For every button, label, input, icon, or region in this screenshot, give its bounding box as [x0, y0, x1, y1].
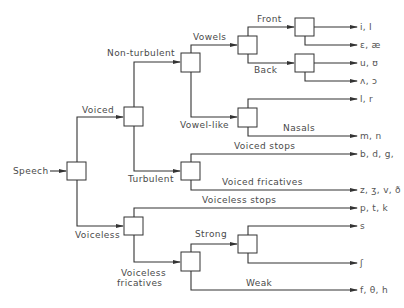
- label-voiceless-stops: Voiceless stops: [202, 195, 276, 205]
- node-non-turbulent: [181, 53, 200, 72]
- label-voiced-fricatives: Voiced fricatives: [222, 177, 303, 187]
- output-voiced-stops: b, d, g,: [360, 149, 394, 159]
- edge-back: [248, 54, 294, 63]
- output-front-2: ɛ, æ: [360, 40, 381, 50]
- node-speech: [67, 162, 86, 180]
- label-voiced: Voiced: [82, 105, 114, 115]
- label-turbulent: Turbulent: [127, 174, 174, 184]
- edge-voiceless-stops: [134, 208, 357, 217]
- node-front: [295, 18, 314, 36]
- label-non-turbulent: Non-turbulent: [107, 48, 175, 58]
- node-turbulent: [181, 162, 200, 180]
- edge-non-turbulent: [134, 62, 180, 107]
- edge-strong-out-1: [248, 226, 357, 235]
- edge-vowel-like: [191, 72, 237, 117]
- edge-weak: [191, 271, 357, 290]
- edge-vowels: [191, 45, 237, 53]
- node-back: [295, 54, 314, 72]
- edge-voiced-stops: [191, 154, 357, 162]
- label-weak: Weak: [246, 278, 273, 288]
- label-voiceless: Voiceless: [75, 230, 120, 240]
- output-voiceless-stops: p, t, k: [360, 203, 388, 213]
- node-voiceless-fricatives: [181, 252, 200, 271]
- speech-classification-tree: Speech Voiced Voiceless Non-turbulent Tu…: [0, 0, 404, 308]
- label-voiceless-fricatives-line1: Voiceless: [121, 268, 166, 278]
- label-nasals: Nasals: [283, 123, 315, 133]
- label-voiced-stops: Voiced stops: [234, 141, 295, 151]
- node-voiced: [124, 107, 143, 126]
- output-nasals: m, n: [360, 131, 381, 141]
- output-vowel-like-1: l, r: [360, 94, 373, 104]
- node-voiceless: [124, 217, 143, 235]
- edge-turbulent: [134, 126, 180, 171]
- output-front-1: i, I: [360, 22, 372, 32]
- edge-voiceless: [77, 180, 123, 226]
- edge-voiceless-fricatives: [134, 235, 180, 262]
- node-vowel-like: [238, 108, 257, 127]
- edge-front: [248, 27, 294, 36]
- output-back-2: ʌ, ɔ: [360, 76, 377, 86]
- edge-voiced: [77, 117, 123, 162]
- label-back: Back: [254, 65, 278, 75]
- output-back-1: u, ʊ: [360, 58, 378, 68]
- node-strong: [238, 235, 257, 253]
- label-vowels: Vowels: [193, 32, 226, 42]
- label-strong: Strong: [195, 229, 227, 239]
- edge-strong: [191, 244, 237, 252]
- edge-vowel-like-out-1: [248, 99, 357, 108]
- label-voiceless-fricatives-line2: fricatives: [117, 278, 162, 288]
- output-weak: f, θ, h: [360, 285, 388, 295]
- edge-strong-out-2: [248, 253, 357, 263]
- output-strong-2: ʃ: [359, 258, 364, 268]
- output-voiced-fricatives: z, ʒ, v, ð: [360, 185, 401, 195]
- edge-back-out-2: [305, 72, 357, 81]
- label-front: Front: [257, 14, 282, 24]
- label-vowel-like: Vowel-like: [180, 120, 229, 130]
- output-strong-1: s: [360, 221, 365, 231]
- node-vowels: [238, 36, 257, 54]
- label-speech: Speech: [13, 166, 49, 176]
- edge-front-out-2: [305, 36, 357, 45]
